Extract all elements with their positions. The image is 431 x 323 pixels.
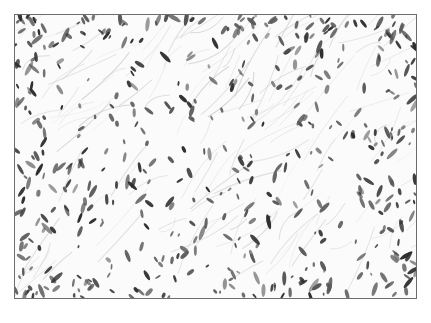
histology-micrograph: Grayscale histology micrograph of loose … <box>14 14 417 299</box>
nucleus <box>282 271 286 286</box>
tissue-texture <box>15 15 416 298</box>
